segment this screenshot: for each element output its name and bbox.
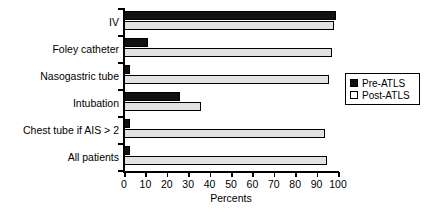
x-tick: [167, 172, 169, 177]
x-tick: [295, 172, 297, 177]
y-axis-label-chest-tube: Chest tube if AIS > 2: [0, 125, 119, 136]
y-axis-label-intubation: Intubation: [0, 98, 119, 109]
bar-group-all-patients: [124, 143, 338, 170]
legend-label-post-atls: Post-ATLS: [362, 90, 410, 101]
bar-pre-atls-chest-tube: [124, 119, 130, 128]
bar-post-atls-iv: [124, 21, 334, 30]
y-axis-label-iv: IV: [0, 17, 119, 28]
bar-pre-atls-intubation: [124, 92, 180, 101]
y-tick: [118, 116, 123, 118]
x-tick: [231, 172, 233, 177]
chart-legend: Pre-ATLS Post-ATLS: [345, 73, 420, 105]
x-tick: [338, 172, 340, 177]
y-tick: [118, 8, 123, 10]
bar-pre-atls-all-patients: [124, 146, 130, 155]
bar-pre-atls-nasogastric: [124, 65, 130, 74]
x-axis-title: Percents: [124, 192, 338, 204]
bar-pre-atls-iv: [124, 11, 336, 20]
bar-post-atls-foley: [124, 48, 332, 57]
y-tick: [118, 170, 123, 172]
legend-label-pre-atls: Pre-ATLS: [362, 78, 405, 89]
x-tick: [274, 172, 276, 177]
bar-group-foley: [124, 35, 338, 62]
y-tick: [118, 62, 123, 64]
bar-pre-atls-foley: [124, 38, 148, 47]
x-tick: [252, 172, 254, 177]
bar-post-atls-chest-tube: [124, 129, 325, 138]
legend-swatch-filled-icon: [350, 79, 358, 87]
legend-entry-post-atls: Post-ATLS: [350, 89, 415, 101]
bar-chart: IV Foley catheter Nasogastric tube Intub…: [0, 0, 429, 215]
bar-group-nasogastric: [124, 62, 338, 89]
x-tick: [210, 172, 212, 177]
x-tick-label-100: 100: [323, 178, 353, 190]
y-tick: [118, 35, 123, 37]
y-axis-label-all-patients: All patients: [0, 152, 119, 163]
plot-area: [124, 8, 338, 170]
bar-post-atls-all-patients: [124, 156, 327, 165]
bar-group-intubation: [124, 89, 338, 116]
bar-group-iv: [124, 8, 338, 35]
legend-swatch-open-icon: [350, 91, 358, 99]
y-tick: [118, 89, 123, 91]
legend-entry-pre-atls: Pre-ATLS: [350, 77, 415, 89]
bar-post-atls-nasogastric: [124, 75, 329, 84]
y-axis-label-foley: Foley catheter: [0, 44, 119, 55]
x-tick: [317, 172, 319, 177]
x-tick: [145, 172, 147, 177]
y-axis-label-nasogastric: Nasogastric tube: [0, 71, 119, 82]
y-tick: [118, 143, 123, 145]
x-tick: [124, 172, 126, 177]
bar-post-atls-intubation: [124, 102, 201, 111]
x-tick: [188, 172, 190, 177]
bar-group-chest-tube: [124, 116, 338, 143]
